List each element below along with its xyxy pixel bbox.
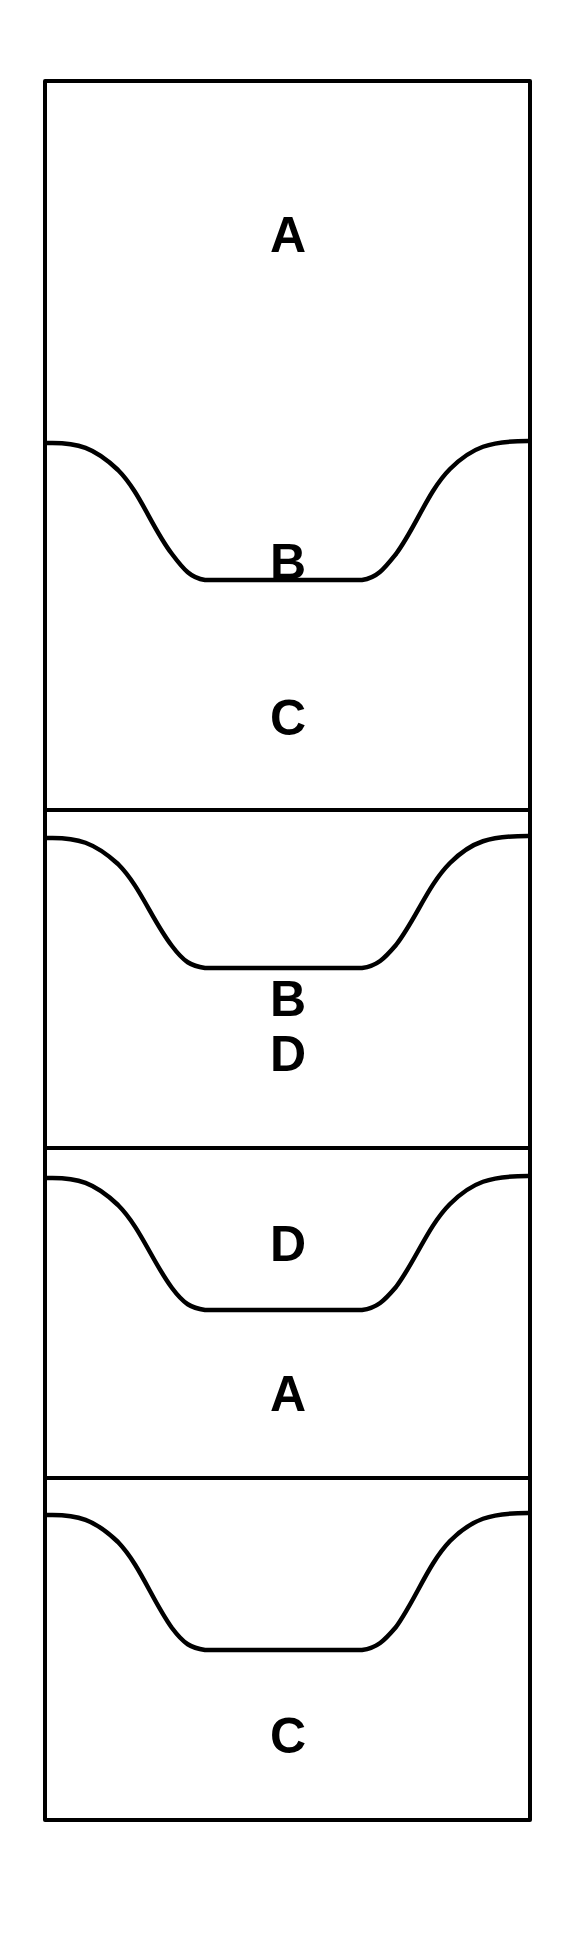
unit-label-d-2: D	[270, 1216, 306, 1272]
unit-label-a-1: A	[270, 207, 306, 263]
stratigraphic-column-svg: A B C D B A D C	[0, 0, 567, 1936]
scour-surface-2	[47, 836, 528, 968]
panel-1: A B	[47, 207, 528, 590]
unit-label-c-2: C	[270, 1708, 306, 1764]
unit-label-b-1: B	[270, 534, 306, 590]
panel-4: D C	[47, 1216, 528, 1764]
unit-label-b-2: B	[270, 971, 306, 1027]
unit-label-c-1: C	[270, 690, 306, 746]
unit-label-a-2: A	[270, 1366, 306, 1422]
unit-label-d-1: D	[270, 1026, 306, 1082]
figure-root: A B C D B A D C	[0, 0, 567, 1936]
outer-column-box	[45, 81, 530, 1820]
scour-surface-4	[47, 1513, 528, 1650]
